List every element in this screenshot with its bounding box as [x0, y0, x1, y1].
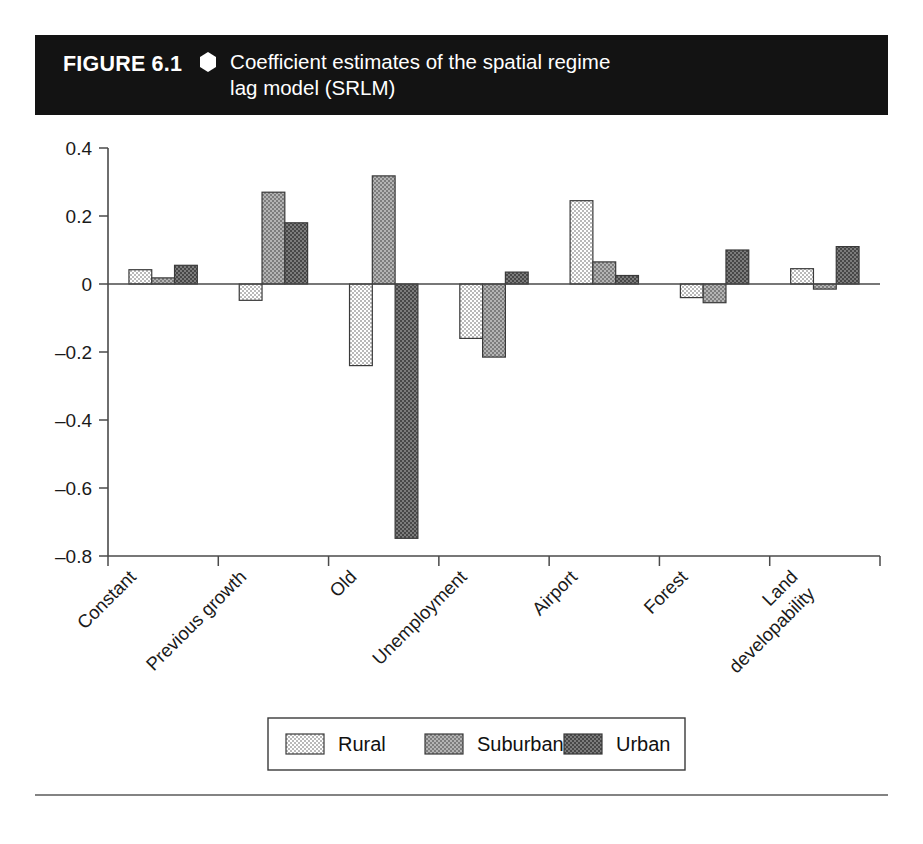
svg-text:Old: Old	[325, 566, 360, 601]
chart-plot-area: 0.40.20–0.2–0.4–0.6–0.8 ConstantPrevious…	[0, 0, 923, 844]
svg-text:Constant: Constant	[73, 566, 140, 633]
bar-urban-land-developability	[836, 247, 859, 284]
bar-rural-land-developability	[791, 269, 814, 284]
y-tick-label: –0.6	[55, 478, 92, 499]
grouped-bar-chart: 0.40.20–0.2–0.4–0.6–0.8 ConstantPrevious…	[0, 0, 923, 844]
bar-suburban-old	[372, 176, 395, 284]
y-tick-label: 0	[81, 274, 92, 295]
svg-text:Previous growth: Previous growth	[142, 566, 251, 675]
bar-urban-airport	[616, 276, 639, 285]
x-category-label-old: Old	[325, 566, 360, 601]
legend-label-rural: Rural	[338, 733, 386, 755]
bar-rural-old	[350, 284, 373, 366]
bar-suburban-forest	[703, 284, 726, 303]
bar-rural-airport	[570, 201, 593, 284]
x-category-label-forest: Forest	[639, 566, 691, 618]
y-tick-label: –0.4	[55, 410, 92, 431]
y-tick-label: 0.2	[66, 206, 92, 227]
y-tick-label: –0.8	[55, 546, 92, 567]
bar-urban-unemployment	[505, 272, 528, 284]
bar-suburban-airport	[593, 262, 616, 284]
x-category-label-previous-growth: Previous growth	[142, 566, 251, 675]
y-tick-label: –0.2	[55, 342, 92, 363]
legend-swatch-rural	[286, 734, 324, 754]
category-labels: ConstantPrevious growthOldUnemploymentAi…	[73, 565, 819, 677]
bar-urban-old	[395, 284, 418, 538]
bar-suburban-unemployment	[483, 284, 506, 357]
bar-suburban-constant	[152, 278, 175, 284]
y-tick-label: 0.4	[66, 138, 93, 159]
x-category-label-unemployment: Unemployment	[368, 566, 471, 669]
x-category-label-land-developability: Landdevelopability	[708, 565, 820, 677]
legend-label-suburban: Suburban	[477, 733, 564, 755]
bar-rural-forest	[680, 284, 703, 298]
chart-legend: RuralSuburbanUrban	[268, 718, 685, 770]
bars-layer	[129, 176, 859, 538]
bar-rural-unemployment	[460, 284, 483, 338]
svg-text:Airport: Airport	[528, 566, 581, 619]
legend-swatch-suburban	[425, 734, 463, 754]
bar-rural-constant	[129, 270, 152, 284]
bar-urban-forest	[726, 250, 749, 284]
bar-urban-constant	[175, 265, 198, 284]
svg-text:Unemployment: Unemployment	[368, 566, 471, 669]
bar-suburban-previous-growth	[262, 192, 285, 284]
x-category-label-constant: Constant	[73, 566, 140, 633]
y-axis: 0.40.20–0.2–0.4–0.6–0.8	[55, 138, 108, 567]
x-category-label-airport: Airport	[528, 566, 581, 619]
legend-swatch-urban	[564, 734, 602, 754]
svg-text:Forest: Forest	[639, 566, 691, 618]
bar-urban-previous-growth	[285, 223, 308, 284]
bar-suburban-land-developability	[813, 284, 836, 289]
figure-container: FIGURE 6.1 Coefficient estimates of the …	[0, 0, 923, 844]
x-axis	[108, 556, 880, 566]
bar-rural-previous-growth	[239, 284, 262, 300]
legend-label-urban: Urban	[616, 733, 670, 755]
